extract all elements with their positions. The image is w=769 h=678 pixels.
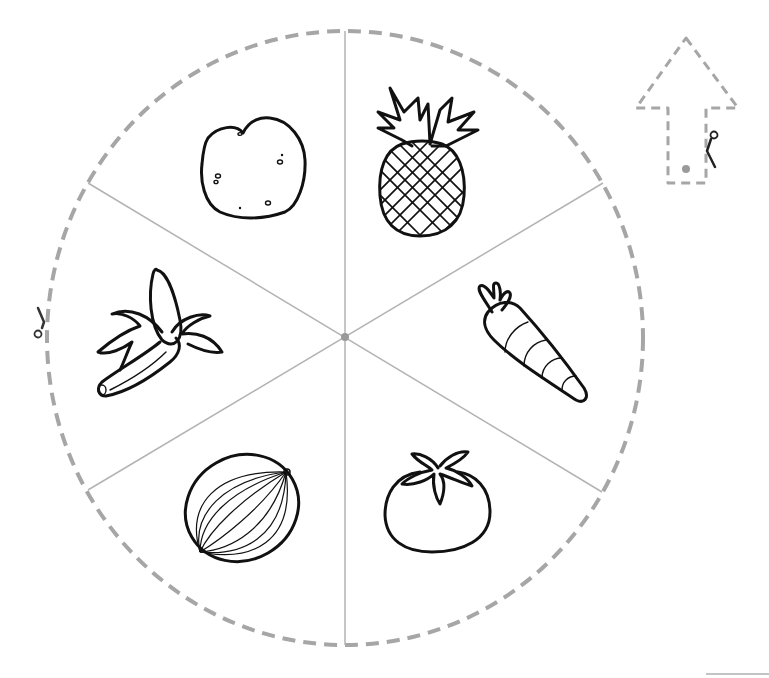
banana-icon — [98, 269, 222, 396]
spinner-arrow-pointer[interactable] — [636, 38, 738, 183]
spinner-wheel[interactable] — [47, 31, 643, 645]
worksheet-canvas — [0, 0, 769, 678]
wheel-center-pin — [341, 333, 349, 341]
scissors-icon — [707, 132, 718, 168]
tomato-icon — [385, 452, 490, 552]
arrow-pin-dot — [682, 165, 690, 173]
carrot-icon — [479, 283, 586, 401]
pineapple-icon — [340, 88, 500, 255]
scissors-icon — [35, 308, 45, 338]
watermelon-icon — [166, 434, 318, 582]
potato-icon — [202, 118, 306, 218]
